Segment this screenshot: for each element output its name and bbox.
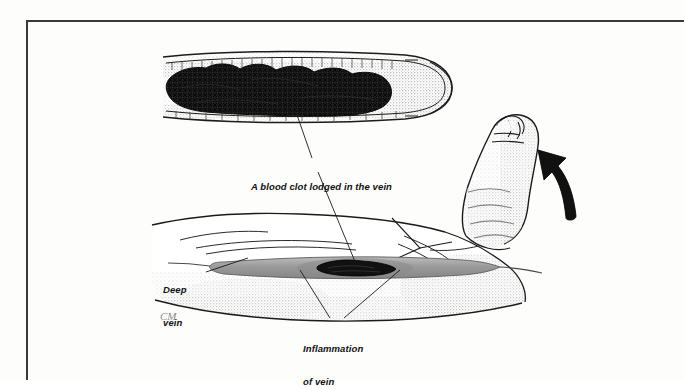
inset-cutaway-vein [160, 51, 458, 122]
label-blood-clot-text: A blood clot lodged in the vein [251, 182, 392, 193]
artist-signature: CM [160, 310, 177, 322]
label-blood-clot: A blood clot lodged in the vein [251, 160, 392, 215]
label-inflammation-line2: of vein [303, 377, 363, 388]
label-deep-vein-line1: Deep [163, 285, 187, 296]
label-inflammation-line1: Inflammation [303, 344, 363, 355]
foot-figure [460, 112, 550, 252]
label-inflammation: Inflammation of vein [303, 322, 363, 389]
foot-flexion-arrow [538, 150, 576, 220]
label-deep-vein: Deep vein [163, 263, 187, 350]
